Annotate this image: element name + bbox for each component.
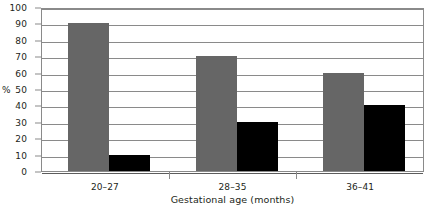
x-tick-label-1: 20–27 (91, 182, 119, 192)
y-tick-label-100: 100 (10, 4, 27, 13)
y-tick-label-50: 50 (15, 86, 27, 95)
y-tick-label-10: 10 (15, 151, 27, 160)
y-tick-label-40: 40 (15, 102, 27, 111)
y-axis-title: % (2, 86, 11, 95)
bar-chart-figure: 0102030405060708090100 % 20–2728–3536–41… (0, 0, 431, 212)
y-tick-label-80: 80 (15, 36, 27, 45)
bar-series-a-1 (68, 23, 109, 171)
y-tick-label-30: 30 (15, 118, 27, 127)
x-tick-label-3: 36–41 (346, 182, 374, 192)
x-tick-label-2: 28–35 (219, 182, 247, 192)
y-tick-label-0: 0 (21, 168, 27, 177)
bar-series-b-2 (237, 122, 278, 171)
x-category-separator-1 (169, 172, 170, 179)
y-axis: 0102030405060708090100 (0, 0, 41, 212)
x-axis-title: Gestational age (months) (41, 194, 424, 205)
bar-series-b-3 (364, 105, 405, 171)
bar-series-b-1 (109, 155, 150, 171)
bar-series-a-2 (196, 56, 237, 171)
plot-area (41, 8, 424, 172)
y-tick-label-60: 60 (15, 69, 27, 78)
gridline-100 (42, 9, 423, 10)
y-tick-label-20: 20 (15, 135, 27, 144)
x-axis: 20–2728–3536–41 (41, 172, 424, 212)
y-tick-label-70: 70 (15, 53, 27, 62)
y-tick-label-90: 90 (15, 20, 27, 29)
bar-series-a-3 (323, 73, 364, 171)
x-category-separator-2 (296, 172, 297, 179)
